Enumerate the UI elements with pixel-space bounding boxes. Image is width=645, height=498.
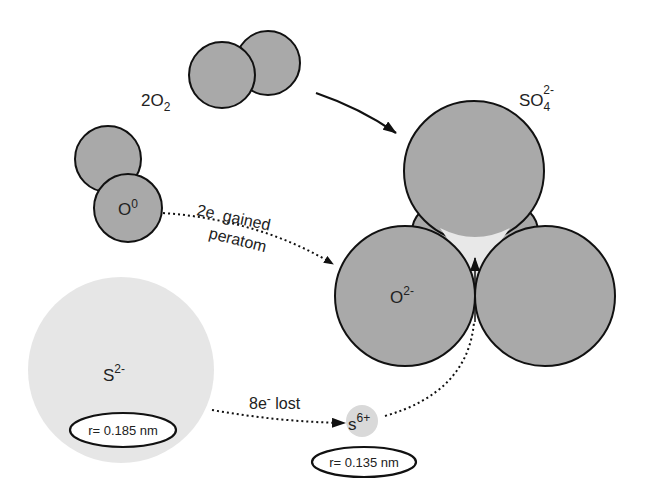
electron-gain-text-line1: 2e gained [195,201,272,233]
oxygen-atoms [75,126,162,242]
sulfide-oxidation-diagram: 2O2 SO42- O2- O0 2e gained peratom S2- r… [0,0,645,498]
reaction-arrow [316,93,396,133]
sulfate-ion [335,101,615,366]
cation-radius-text: r= 0.135 nm [329,455,399,470]
oxygen-bottom-right [475,226,615,366]
o2-label: 2O2 [141,91,171,114]
electron-loss-text: 8e- lost [249,392,301,412]
o2-molecule [189,31,300,108]
sulfate-label: SO42- [519,83,554,114]
o2-atom-left [189,42,255,108]
oxygen-top [404,101,544,241]
sulfide-radius-text: r= 0.185 nm [88,423,158,438]
